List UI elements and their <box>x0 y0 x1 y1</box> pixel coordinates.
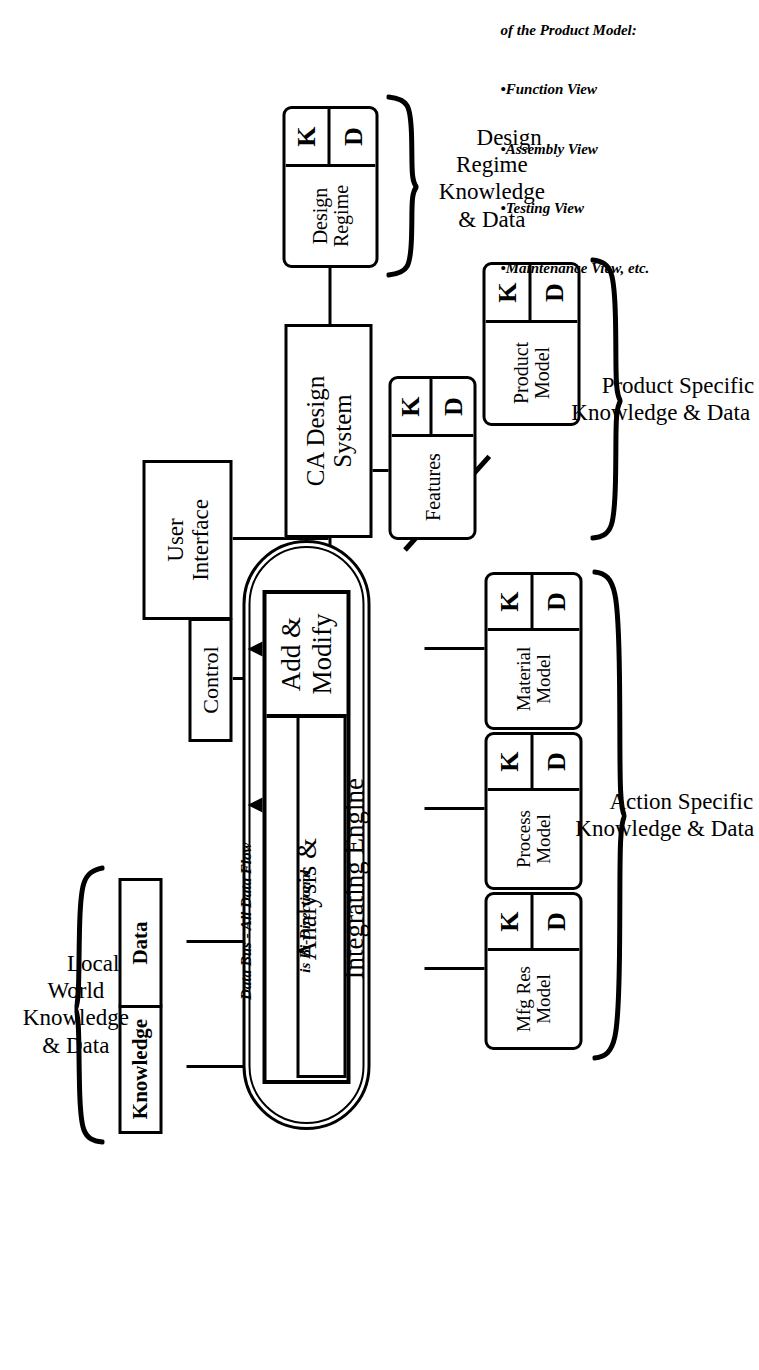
material-model-k: K <box>487 575 533 628</box>
design-regime-kd: K D <box>285 109 375 167</box>
product-model-line1: Product <box>510 342 531 404</box>
nb-note-bullet-maintenance: •Maintenance View, etc. <box>500 259 759 279</box>
nb-note-line2: of the Product Model: <box>500 21 759 41</box>
process-model-line1: Process <box>513 810 533 868</box>
ca-design-system-box: CA Design System <box>284 324 372 538</box>
mfg-res-model-kd: K D <box>487 895 579 951</box>
product-model-line2: Model <box>531 347 552 399</box>
nb-note: NB - There can be several views of the P… <box>500 0 759 318</box>
data-bus-note: Data Bus - All Data Flow is Bi-Direction… <box>196 843 354 1000</box>
mfg-res-model-name: Mfg Res Model <box>487 951 579 1047</box>
control-box: Control <box>188 618 232 742</box>
material-model-kd: K D <box>487 575 579 631</box>
material-model-line2: Model <box>533 654 553 704</box>
user-interface-line1: User <box>162 518 187 561</box>
connector-cad-to-design-regime <box>328 268 331 324</box>
features-label: Features <box>422 453 443 521</box>
nb-note-bullet-assembly: •Assembly View <box>500 140 759 160</box>
material-model-block: Material Model K D <box>484 572 582 730</box>
ca-design-system-line2: System <box>328 394 356 468</box>
features-kd: K D <box>391 379 473 437</box>
mfg-res-model-line2: Model <box>533 974 553 1024</box>
material-model-line1: Material <box>513 647 533 711</box>
features-k: K <box>391 379 432 434</box>
user-interface-box: User Interface <box>142 460 232 620</box>
material-model-d: D <box>533 575 579 628</box>
mfg-res-model-d: D <box>533 895 579 948</box>
control-box-label: Control <box>198 646 222 713</box>
features-name: Features <box>391 437 473 537</box>
process-model-line2: Model <box>533 814 553 864</box>
engine-add-modify-label: Add & Modify <box>275 594 337 714</box>
design-regime-d: D <box>330 109 375 164</box>
features-d: D <box>432 379 473 434</box>
mfg-res-model-block: Mfg Res Model K D <box>484 892 582 1050</box>
design-regime-line2: Regime <box>330 185 351 247</box>
local-world-group-label: Local World Knowledge & Data <box>0 923 158 1086</box>
process-model-k: K <box>487 735 533 788</box>
data-bus-note-line1: Data Bus - All Data Flow <box>236 843 256 1000</box>
ca-design-system-line1: CA Design <box>301 376 329 486</box>
design-regime-k: K <box>285 109 330 164</box>
features-block: Features K D <box>388 376 476 540</box>
connector-knowledge-to-bus <box>186 1065 244 1068</box>
local-world-group-label-text: Local World Knowledge & Data <box>22 951 128 1057</box>
design-regime-line1: Design <box>309 188 330 245</box>
design-regime-block: Design Regime K D <box>282 106 378 268</box>
engine-add-modify-cell: Add & Modify <box>266 594 346 718</box>
user-interface-line2: Interface <box>187 499 212 581</box>
mfg-res-model-k: K <box>487 895 533 948</box>
product-specific-group-label-text: Product Specific Knowledge & Data <box>571 373 754 425</box>
connector-bus-to-material-model <box>424 647 484 650</box>
data-bus-note-line2: is Bi-Directional <box>295 843 315 1000</box>
action-specific-group-label-text: Action Specific Knowledge & Data <box>575 789 754 841</box>
connector-bus-to-process-model <box>424 807 484 810</box>
nb-note-bullet-function: •Function View <box>500 80 759 100</box>
product-specific-group-label: Product Specific Knowledge & Data <box>550 345 759 454</box>
material-model-name: Material Model <box>487 631 579 727</box>
design-regime-name: Design Regime <box>285 167 375 265</box>
nb-note-bullet-testing: •Testing View <box>500 199 759 219</box>
connector-bus-to-mfgres-model <box>424 967 484 970</box>
action-specific-group-label: Action Specific Knowledge & Data <box>560 761 759 870</box>
mfg-res-model-line1: Mfg Res <box>513 966 533 1032</box>
